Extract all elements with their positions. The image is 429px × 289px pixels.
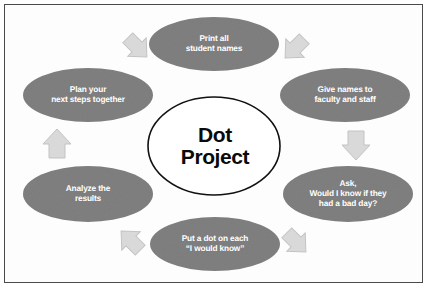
node-ellipse-ask-would-i-know[interactable] bbox=[283, 166, 413, 222]
node-ellipse-print-all-student-names[interactable] bbox=[149, 17, 279, 71]
arrow-ask-to-put-dot bbox=[278, 224, 315, 261]
arrow-give-to-ask bbox=[342, 131, 370, 160]
center-ellipse bbox=[148, 97, 280, 195]
cycle-diagram-canvas bbox=[0, 0, 429, 289]
arrow-put-dot-to-analyze bbox=[112, 222, 149, 259]
node-ellipse-give-names-to-faculty-and-staff[interactable] bbox=[280, 68, 410, 122]
node-ellipse-put-a-dot-on-each[interactable] bbox=[150, 217, 280, 271]
dot-project-cycle-diagram: Print all student names Give names to fa… bbox=[0, 0, 429, 289]
node-ellipse-plan-your-next-steps-together[interactable] bbox=[23, 68, 153, 122]
arrow-print-to-give bbox=[276, 30, 313, 67]
arrow-analyze-to-plan bbox=[43, 129, 71, 158]
node-ellipse-analyze-the-results[interactable] bbox=[23, 166, 153, 222]
